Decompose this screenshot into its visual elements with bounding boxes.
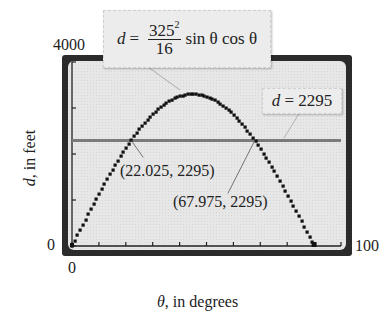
x-axis-rest: , in degrees — [165, 293, 238, 310]
y-axis-title: d, in feet — [21, 130, 39, 186]
intersection-label-1: (22.025, 2295) — [120, 162, 215, 180]
formula-equals: = — [129, 29, 139, 49]
line-label-callout: d = 2295 — [262, 88, 342, 114]
line-label-value: = 2295 — [280, 91, 332, 111]
numerator-exponent: 2 — [175, 19, 180, 30]
intersection-label-2: (67.975, 2295) — [173, 193, 268, 211]
formula-lhs: d — [117, 29, 126, 49]
y-axis-rest: , in feet — [21, 130, 38, 178]
y-min-label: 0 — [47, 237, 55, 253]
x-axis-var: θ — [157, 293, 165, 310]
line-label-var: d — [272, 91, 281, 111]
y-axis-var: d — [21, 178, 38, 186]
numerator-base: 325 — [149, 21, 175, 40]
formula-fraction: 3252 16 — [148, 22, 181, 57]
formula-callout: d = 3252 16 sin θ cos θ — [103, 10, 271, 68]
formula-denominator: 16 — [156, 40, 173, 57]
x-max-label: 100 — [355, 238, 379, 254]
x-min-label: 0 — [68, 260, 76, 276]
formula-trig: sin θ cos θ — [186, 29, 258, 49]
y-max-label: 4000 — [53, 37, 85, 53]
formula-numerator: 3252 — [148, 22, 181, 40]
x-axis-title: θ, in degrees — [157, 293, 238, 311]
